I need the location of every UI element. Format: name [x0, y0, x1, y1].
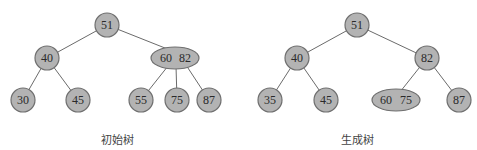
svg-text:75: 75	[171, 93, 183, 107]
tree-node-60-82: 60 82	[151, 47, 199, 69]
svg-text:82: 82	[421, 51, 433, 65]
svg-text:51: 51	[101, 18, 113, 32]
svg-text:40: 40	[291, 51, 303, 65]
tree-node-87: 87	[447, 88, 471, 112]
svg-text:87: 87	[203, 93, 215, 107]
svg-text:75: 75	[400, 93, 412, 107]
svg-text:35: 35	[264, 93, 276, 107]
tree-node-40: 40	[35, 46, 59, 70]
tree-node-45: 45	[66, 88, 90, 112]
svg-text:82: 82	[179, 51, 191, 65]
initial-tree: 51 40 60 82 30 45 55 75 87	[11, 13, 221, 112]
tree-node-60-75: 60 75	[372, 89, 420, 111]
tree-node-55: 55	[129, 88, 153, 112]
tree-node-35: 35	[258, 88, 282, 112]
svg-text:60: 60	[160, 51, 172, 65]
generated-tree-caption: 生成树	[341, 131, 374, 147]
svg-text:40: 40	[41, 51, 53, 65]
tree-diagram: 51 40 60 82 30 45 55 75 87	[0, 0, 477, 150]
generated-tree: 51 40 82 35 45 60 75 87	[258, 13, 471, 112]
svg-text:87: 87	[453, 93, 465, 107]
svg-text:45: 45	[72, 93, 84, 107]
tree-node-87: 87	[197, 88, 221, 112]
tree-node-75: 75	[165, 88, 189, 112]
initial-tree-caption: 初始树	[101, 131, 134, 147]
svg-text:30: 30	[17, 93, 29, 107]
tree-node-82: 82	[415, 46, 439, 70]
tree-node-30: 30	[11, 88, 35, 112]
tree-node-45: 45	[314, 88, 338, 112]
svg-text:45: 45	[320, 93, 332, 107]
tree-node-51: 51	[95, 13, 119, 37]
tree-node-51: 51	[345, 13, 369, 37]
svg-text:51: 51	[351, 18, 363, 32]
svg-text:55: 55	[135, 93, 147, 107]
svg-text:60: 60	[380, 93, 392, 107]
tree-node-40: 40	[285, 46, 309, 70]
